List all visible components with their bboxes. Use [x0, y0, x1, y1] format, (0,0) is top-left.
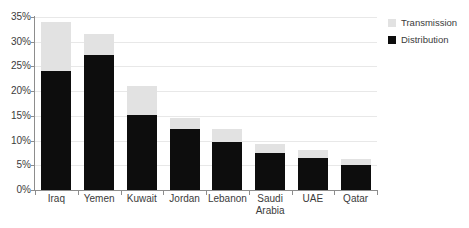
x-axis-category-label-line: Iraq — [35, 193, 78, 205]
x-axis-category-label-line: Qatar — [334, 193, 377, 205]
y-axis-tick-label: 30% — [2, 37, 31, 47]
bar-stack — [212, 129, 242, 190]
bar-segment-distribution — [212, 142, 242, 190]
x-axis-category-label: Jordan — [163, 193, 206, 205]
legend-label-transmission: Transmission — [401, 18, 457, 28]
x-axis-category-label-line: Kuwait — [121, 193, 164, 205]
legend-item-distribution: Distribution — [388, 31, 469, 48]
legend-item-transmission: Transmission — [388, 14, 469, 31]
y-axis-tick-label: 20% — [2, 86, 31, 96]
bar-group — [35, 17, 78, 190]
bar-segment-transmission — [212, 129, 242, 142]
bar-segment-transmission — [170, 118, 200, 129]
bar-segment-distribution — [170, 129, 200, 190]
bar-stack — [170, 118, 200, 190]
bar-segment-distribution — [127, 115, 157, 190]
bar-group — [78, 17, 121, 190]
x-axis-category-label: SaudiArabia — [249, 193, 292, 217]
bar-segment-transmission — [341, 159, 371, 165]
bar-group — [163, 17, 206, 190]
x-axis-category-label-line: Yemen — [78, 193, 121, 205]
x-axis-category-label-line: UAE — [292, 193, 335, 205]
bar-stack — [84, 34, 114, 190]
bar-segment-transmission — [255, 144, 285, 154]
bar-segment-distribution — [41, 71, 71, 190]
bar-stack — [298, 150, 328, 190]
bar-stack — [41, 22, 71, 190]
bar-segment-distribution — [255, 153, 285, 190]
bar-segment-transmission — [41, 22, 71, 71]
y-axis-tick-label: 5% — [2, 160, 31, 170]
x-axis-category-label: Iraq — [35, 193, 78, 205]
x-axis-category-label-line: Jordan — [163, 193, 206, 205]
bar-stack — [255, 144, 285, 190]
x-axis-category-label: Lebanon — [206, 193, 249, 205]
bar-group — [249, 17, 292, 190]
bar-segment-transmission — [84, 34, 114, 55]
y-axis-tick-label: 35% — [2, 12, 31, 22]
x-axis-category-label: Kuwait — [121, 193, 164, 205]
legend: Transmission Distribution — [388, 14, 469, 48]
y-axis-tick-label: 0% — [2, 185, 31, 195]
bar-segment-distribution — [298, 158, 328, 190]
bar-group — [206, 17, 249, 190]
x-axis-category-label: Yemen — [78, 193, 121, 205]
bar-group — [121, 17, 164, 190]
bars-layer — [35, 17, 377, 190]
bar-stack — [341, 159, 371, 190]
y-axis-tick-label: 15% — [2, 111, 31, 121]
x-axis-tick — [377, 191, 378, 195]
legend-label-distribution: Distribution — [401, 35, 449, 45]
bar-segment-transmission — [127, 86, 157, 115]
bar-stack — [127, 86, 157, 190]
legend-swatch-transmission-icon — [388, 19, 396, 27]
y-axis-tick-label: 25% — [2, 61, 31, 71]
stacked-bar-chart: 0%5%10%15%20%25%30%35% IraqYemenKuwaitJo… — [0, 0, 469, 228]
x-axis-category-label-line: Lebanon — [206, 193, 249, 205]
x-axis-category-label: Qatar — [334, 193, 377, 205]
bar-group — [334, 17, 377, 190]
bar-segment-distribution — [341, 165, 371, 190]
chart-title-cropped — [16, 0, 356, 2]
y-axis-tick-label: 10% — [2, 136, 31, 146]
bar-segment-transmission — [298, 150, 328, 157]
x-axis-category-label-line: Arabia — [249, 205, 292, 217]
x-axis-category-label: UAE — [292, 193, 335, 205]
bar-group — [292, 17, 335, 190]
x-axis-category-label-line: Saudi — [249, 193, 292, 205]
legend-swatch-distribution-icon — [388, 36, 396, 44]
x-axis-category-labels: IraqYemenKuwaitJordanLebanonSaudiArabiaU… — [35, 193, 377, 228]
bar-segment-distribution — [84, 55, 114, 190]
